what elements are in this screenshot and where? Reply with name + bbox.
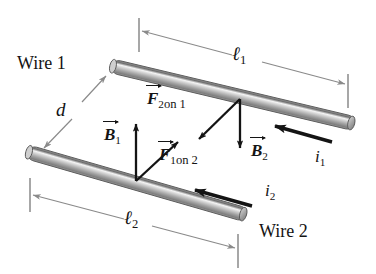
field-B2-symbol: B	[251, 142, 262, 159]
wire-1-label: Wire 1	[17, 54, 66, 72]
field-B1-letter: B	[104, 125, 115, 144]
dim-line-l2-right-segment	[152, 226, 235, 248]
separation-d-label: d	[56, 100, 66, 119]
dim-line-d-lower-segment	[44, 119, 72, 148]
force-2-on-1-on-word: on	[164, 97, 177, 111]
current-i1-subscript: 1	[320, 156, 326, 168]
length-1-label: ℓ1	[232, 44, 246, 67]
current-i2-label: i2	[265, 182, 275, 202]
dim-line-d-upper-segment	[82, 76, 106, 102]
force-2-on-1-label: F2on1	[147, 90, 186, 110]
physics-diagram-two-parallel-wires: Wire 1 Wire 2 ℓ1 ℓ2 d F2on1 F1on2 B1 B2 …	[0, 0, 376, 274]
dimension-separation-d	[44, 76, 106, 148]
force-1-on-2-symbol: F	[159, 146, 170, 163]
vector-force-2-on-1	[199, 99, 240, 139]
force-1-on-2-label: F1on2	[159, 146, 198, 166]
length-1-subscript: 1	[240, 53, 246, 67]
field-B2-letter: B	[251, 141, 262, 160]
field-B2-label: B2	[251, 142, 268, 162]
vector-arrow-accent-f1on2	[158, 141, 173, 142]
vector-arrow-accent-b2	[250, 137, 265, 138]
force-2-on-1-letter: F	[147, 89, 158, 108]
field-B2-subscript: 2	[262, 150, 268, 162]
length-2-label: ℓ2	[124, 208, 138, 231]
field-B1-symbol: B	[104, 126, 115, 143]
force-1-on-2-letter: F	[159, 145, 170, 164]
length-1-symbol: ℓ	[232, 42, 240, 64]
current-arrow-i1	[275, 126, 332, 142]
vector-arrow-accent-b1	[103, 121, 118, 122]
wire-2-label: Wire 2	[259, 222, 308, 240]
force-2-on-1-target: 1	[177, 97, 186, 111]
dim-line-l1-right-segment	[262, 62, 345, 84]
current-i2-subscript: 2	[270, 190, 276, 202]
current-i1-label: i1	[315, 148, 325, 168]
field-B1-label: B1	[104, 126, 121, 146]
length-2-symbol: ℓ	[124, 206, 132, 228]
force-1-on-2-target: 2	[189, 153, 198, 167]
field-B1-subscript: 1	[115, 134, 121, 146]
dim-line-l2-left-segment	[33, 195, 124, 219]
length-2-subscript: 2	[132, 217, 138, 231]
force-1-on-2-on-word: on	[176, 153, 189, 167]
dim-line-l1-left-segment	[142, 31, 232, 55]
vector-arrow-accent-f2on1	[146, 85, 161, 86]
diagram-canvas	[0, 0, 376, 274]
wire-1-rod	[108, 59, 356, 131]
force-2-on-1-symbol: F	[147, 90, 158, 107]
